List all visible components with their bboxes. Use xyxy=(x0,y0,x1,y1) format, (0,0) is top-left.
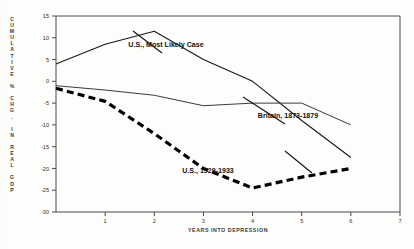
series-annotation-label: U.S., Most Likely Case xyxy=(128,41,203,49)
y-tick-label: 5 xyxy=(46,57,49,63)
x-tick-label: 5 xyxy=(300,218,303,224)
y-tick-label: -15 xyxy=(41,144,49,150)
data-series-group xyxy=(56,31,351,188)
series-annotation-label: U.S., 1929-1933 xyxy=(182,167,234,175)
y-tick-label: -10 xyxy=(41,122,49,128)
chart-container: CUMULATIVE % CHG. IN REAL GDP 151050-5-1… xyxy=(0,0,414,249)
y-tick-label: -30 xyxy=(41,209,49,215)
x-tick-label: 3 xyxy=(202,218,205,224)
chart-plot-area: 151050-5-10-15-20-25-30 1234567 YEARS IN… xyxy=(0,0,414,249)
series-annotation-label: Britain, 1873-1879 xyxy=(258,112,318,120)
y-tick-label: -5 xyxy=(44,100,49,106)
annotation-leader-lines xyxy=(133,31,312,173)
data-series-line xyxy=(56,31,351,157)
plot-frame xyxy=(56,16,400,212)
y-tick-label: 10 xyxy=(43,35,49,41)
x-tick-label: 2 xyxy=(153,218,156,224)
x-tick-label: 7 xyxy=(398,218,401,224)
x-tick-label: 1 xyxy=(104,218,107,224)
x-tick-label: 4 xyxy=(251,218,254,224)
y-tick-label: -20 xyxy=(41,166,49,172)
leader-line-us-1929 xyxy=(285,151,312,173)
x-axis: 1234567 xyxy=(104,212,402,224)
x-axis-title: YEARS INTO DEPRESSION xyxy=(188,227,268,233)
y-tick-label: 0 xyxy=(46,78,49,84)
y-axis: 151050-5-10-15-20-25-30 xyxy=(41,13,56,215)
y-tick-label: 15 xyxy=(43,13,49,19)
x-tick-label: 6 xyxy=(349,218,352,224)
y-tick-label: -25 xyxy=(41,187,49,193)
